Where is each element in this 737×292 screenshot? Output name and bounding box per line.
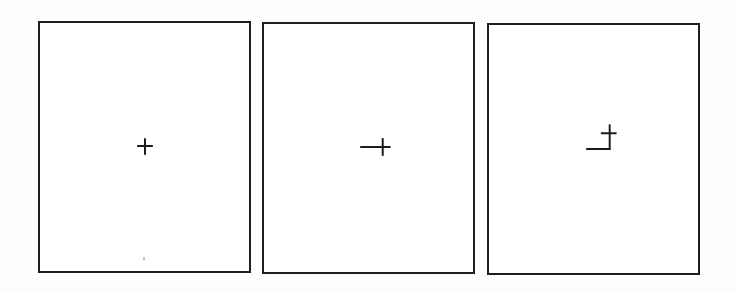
crosshair-extended-left-icon xyxy=(360,138,390,156)
panel-2 xyxy=(262,22,475,274)
crosshair-icon xyxy=(137,138,153,155)
speck-mark xyxy=(144,257,145,260)
panel-3-canvas xyxy=(489,25,698,273)
panel-3 xyxy=(487,23,700,275)
panel-1 xyxy=(38,21,251,273)
panel-1-canvas xyxy=(40,23,249,271)
panel-2-canvas xyxy=(264,24,473,272)
crosshair-offset-icon xyxy=(601,124,617,149)
